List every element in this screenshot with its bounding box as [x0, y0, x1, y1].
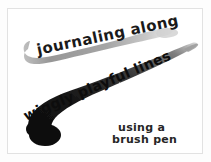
- caption-line-2: brush pen: [112, 133, 177, 146]
- image-canvas: journaling along wiggly playful lines us…: [0, 0, 211, 162]
- paper-sheet: journaling along wiggly playful lines us…: [7, 8, 203, 154]
- brush-lettering-artwork: journaling along wiggly playful lines us…: [8, 9, 203, 154]
- caption-group: using a brush pen: [112, 121, 177, 146]
